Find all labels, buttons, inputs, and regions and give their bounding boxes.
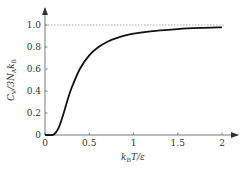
chart: 00.511.5200.20.40.60.81.0 kBT/ε CV/3NAkB <box>0 0 250 177</box>
y-axis-label: CV/3NAkB <box>6 58 17 101</box>
y-tick-label: 0 <box>35 130 41 140</box>
x-axis-label: kBT/ε <box>121 152 145 163</box>
x-tick-label: 1 <box>131 138 137 148</box>
y-tick-label: 0.8 <box>27 42 42 52</box>
y-tick-label: 0.2 <box>27 108 41 118</box>
y-tick-label: 1.0 <box>27 20 42 30</box>
y-tick-label: 0.6 <box>27 64 42 74</box>
y-tick-label: 0.4 <box>27 86 42 96</box>
x-tick-label: 2 <box>219 138 225 148</box>
series-line <box>45 27 222 135</box>
x-tick-label: 0 <box>42 138 48 148</box>
x-tick-label: 0.5 <box>82 138 97 148</box>
x-tick-label: 1.5 <box>171 138 186 148</box>
